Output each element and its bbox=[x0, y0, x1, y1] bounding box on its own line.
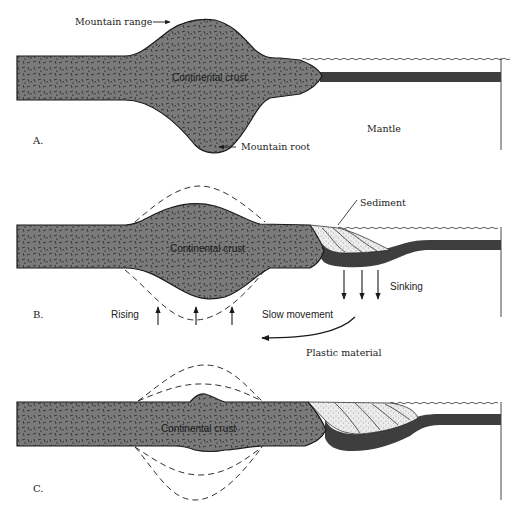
panel-b: Continental crust Rising Sinking Sedimen… bbox=[17, 186, 501, 358]
sea-surface-c bbox=[390, 402, 498, 404]
panel-a: Continental crust Mountain range Mountai… bbox=[17, 16, 510, 153]
panel-c: Continental crust C. bbox=[17, 365, 501, 500]
slow-movement-label: Slow movement bbox=[262, 309, 333, 320]
mountain-range-label: Mountain range bbox=[75, 16, 153, 27]
crust-label-c: Continental crust bbox=[161, 423, 236, 434]
slow-movement-arrow bbox=[262, 317, 355, 338]
sinking-label: Sinking bbox=[390, 281, 423, 292]
continental-crust-a bbox=[17, 19, 322, 153]
isostasy-diagram: Continental crust Mountain range Mountai… bbox=[0, 0, 518, 517]
mountain-root-label: Mountain root bbox=[241, 141, 310, 152]
mantle-label: Mantle bbox=[367, 123, 401, 134]
sediment-label: Sediment bbox=[360, 197, 406, 208]
crust-label-a: Continental crust bbox=[172, 72, 247, 83]
panel-label-a: A. bbox=[32, 135, 43, 146]
plastic-material-label: Plastic material bbox=[306, 347, 382, 358]
oceanic-crust-a bbox=[320, 72, 501, 82]
sea-surface-a bbox=[302, 58, 510, 60]
panel-label-b: B. bbox=[33, 309, 44, 320]
panel-label-c: C. bbox=[33, 483, 43, 494]
sediment-pointer bbox=[338, 200, 357, 225]
sea-surface-b bbox=[338, 227, 498, 229]
former-root-dashed-c2 bbox=[135, 447, 262, 500]
rising-label: Rising bbox=[111, 309, 139, 320]
crust-label-b: Continental crust bbox=[170, 243, 245, 254]
